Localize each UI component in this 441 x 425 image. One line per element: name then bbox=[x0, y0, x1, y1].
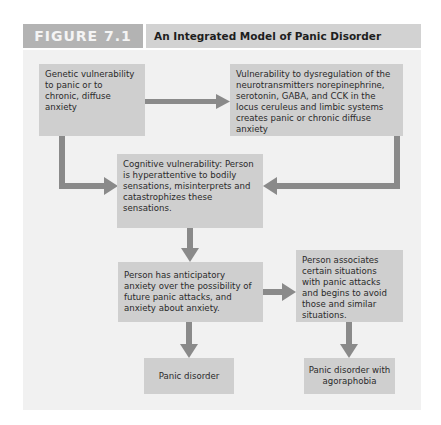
node-situational-association: Person associates certain situations wit… bbox=[296, 250, 403, 322]
node-anticipatory-anxiety: Person has anticipatory anxiety over the… bbox=[118, 262, 263, 322]
node-panic-disorder: Panic disorder bbox=[144, 358, 234, 394]
node-panic-disorder-agoraphobia: Panic disorder with agoraphobia bbox=[304, 358, 395, 394]
figure-label: FIGURE 7.1 bbox=[23, 24, 143, 48]
node-neurotransmitter-vulnerability: Vulnerability to dysregulation of the ne… bbox=[230, 64, 403, 136]
figure-title: An Integrated Model of Panic Disorder bbox=[146, 24, 421, 48]
node-genetic-vulnerability: Genetic vulnerability to panic or to chr… bbox=[39, 64, 145, 136]
node-panic-disorder-label: Panic disorder bbox=[159, 371, 220, 382]
node-agoraphobia-label: Panic disorder with agoraphobia bbox=[308, 365, 391, 387]
node-cognitive-vulnerability: Cognitive vulnerability: Person is hyper… bbox=[117, 154, 263, 228]
